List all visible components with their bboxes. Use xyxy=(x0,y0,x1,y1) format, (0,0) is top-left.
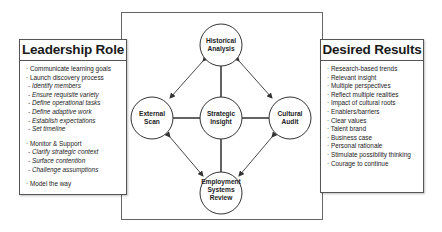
arrow-cultural-employment xyxy=(239,137,272,176)
list-item: · Reflect multiple realities xyxy=(327,91,423,100)
node-cultural-audit: Cultural Audit xyxy=(269,97,311,139)
leadership-role-panel: Leadership Role · Communicate learning g… xyxy=(19,39,127,195)
node-label: Systems xyxy=(207,186,234,194)
leadership-diagram: Historical Analysis External Scan Strate… xyxy=(0,0,442,232)
node-strategic-insight: Strategic Insight xyxy=(200,97,242,139)
list-item: · Model the way xyxy=(26,180,126,189)
node-historical-analysis: Historical Analysis xyxy=(200,24,242,66)
list-item: · Enablers/barriers xyxy=(327,108,423,117)
list-subitem: - Identify members xyxy=(26,82,126,91)
node-label: Historical xyxy=(206,37,236,44)
list-item: · Launch discovery process xyxy=(26,74,126,83)
list-subitem: - Establish expectations xyxy=(26,117,126,126)
list-subitem: - Challenge assumptions xyxy=(26,166,126,175)
panel-title: Desired Results xyxy=(321,40,423,61)
node-label: Scan xyxy=(144,118,160,125)
list-item: · Talent brand xyxy=(327,125,423,134)
list-subitem: - Define operational tasks xyxy=(26,99,126,108)
desired-results-list: · Research-based trends · Relevant insig… xyxy=(321,61,423,168)
node-label: Cultural xyxy=(278,110,303,117)
node-label: Audit xyxy=(282,118,300,125)
list-item: · Communicate learning goals xyxy=(26,65,126,74)
list-item: · Relevant insight xyxy=(327,74,423,83)
list-item: · Courage to continue xyxy=(327,160,423,169)
list-item: · Personal rationale xyxy=(327,142,423,151)
list-item: · Business case xyxy=(327,134,423,143)
list-subitem: - Surface contention xyxy=(26,157,126,166)
node-external-scan: External Scan xyxy=(131,97,173,139)
list-item: · Monitor & Support xyxy=(26,140,126,149)
node-label: Insight xyxy=(210,118,232,126)
list-subitem: - Set timeline xyxy=(26,125,126,134)
list-item: · Multiple perspectives xyxy=(327,82,423,91)
list-item: · Clear values xyxy=(327,117,423,126)
node-label: Analysis xyxy=(207,45,234,53)
node-label: Review xyxy=(210,194,234,201)
node-employment-systems-review: Employment Systems Review xyxy=(200,172,242,214)
list-item: · Research-based trends xyxy=(327,65,423,74)
node-label: External xyxy=(139,110,165,117)
arrow-historical-external xyxy=(170,61,203,98)
list-subitem: - Clarify strategic context xyxy=(26,148,126,157)
leadership-role-list: · Communicate learning goals · Launch di… xyxy=(20,61,126,189)
list-subitem: - Ensure requisite variety xyxy=(26,91,126,100)
list-item: · Stimulate possibility thinking xyxy=(327,151,423,160)
arrow-external-employment xyxy=(170,137,203,176)
desired-results-panel: Desired Results · Research-based trends … xyxy=(320,39,424,193)
panel-title: Leadership Role xyxy=(20,40,126,61)
node-label: Strategic xyxy=(207,110,236,118)
arrow-historical-cultural xyxy=(239,61,272,98)
list-subitem: - Define adaptive work xyxy=(26,108,126,117)
node-label: Employment xyxy=(201,178,241,186)
list-item: · Impact of cultural roots xyxy=(327,99,423,108)
